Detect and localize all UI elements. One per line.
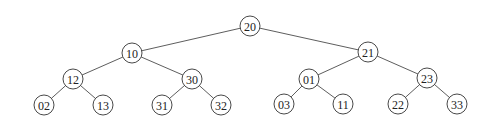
node-label: 20 <box>244 20 256 34</box>
tree-edge-10-30 <box>141 57 183 75</box>
tree-node-11: 11 <box>333 94 353 114</box>
tree-node-02: 02 <box>34 95 54 115</box>
tree-edge-12-13 <box>81 86 96 99</box>
tree-node-13: 13 <box>93 95 113 115</box>
node-label: 10 <box>126 47 138 61</box>
node-label: 02 <box>38 99 50 113</box>
tree-edge-30-31 <box>170 86 185 99</box>
tree-edge-01-03 <box>291 86 302 97</box>
tree-edge-30-32 <box>199 86 213 99</box>
tree-edge-20-10 <box>142 28 241 51</box>
node-label: 33 <box>451 98 463 112</box>
tree-edge-21-01 <box>318 56 359 75</box>
tree-edge-12-02 <box>51 86 65 99</box>
tree-edge-21-23 <box>377 56 418 74</box>
node-label: 01 <box>303 73 315 87</box>
tree-edge-01-11 <box>317 85 335 98</box>
node-label: 23 <box>421 72 433 86</box>
node-label: 13 <box>97 99 109 113</box>
tree-node-32: 32 <box>211 95 231 115</box>
node-label: 30 <box>186 73 198 87</box>
node-label: 12 <box>67 73 79 87</box>
tree-node-33: 33 <box>447 94 467 114</box>
tree-node-01: 01 <box>299 69 319 89</box>
tree-node-20: 20 <box>240 16 260 36</box>
tree-node-21: 21 <box>358 42 378 62</box>
tree-node-23: 23 <box>417 68 437 88</box>
tree-node-30: 30 <box>182 69 202 89</box>
tree-nodes: 201021123001230213313203112233 <box>34 16 467 115</box>
node-label: 11 <box>337 98 349 112</box>
tree-edge-23-22 <box>405 85 419 98</box>
node-label: 03 <box>278 98 290 112</box>
tree-edge-10-12 <box>82 57 123 75</box>
node-label: 32 <box>215 99 227 113</box>
tree-node-31: 31 <box>152 95 172 115</box>
node-label: 21 <box>362 46 374 60</box>
tree-edge-23-33 <box>435 85 450 98</box>
tree-node-12: 12 <box>63 69 83 89</box>
tree-edge-20-21 <box>260 28 358 50</box>
tree-node-10: 10 <box>122 43 142 63</box>
binary-tree-diagram: 201021123001230213313203112233 <box>0 0 481 129</box>
node-label: 31 <box>156 99 168 113</box>
tree-node-22: 22 <box>388 94 408 114</box>
node-label: 22 <box>392 98 404 112</box>
tree-edges <box>51 28 449 98</box>
tree-node-03: 03 <box>274 94 294 114</box>
